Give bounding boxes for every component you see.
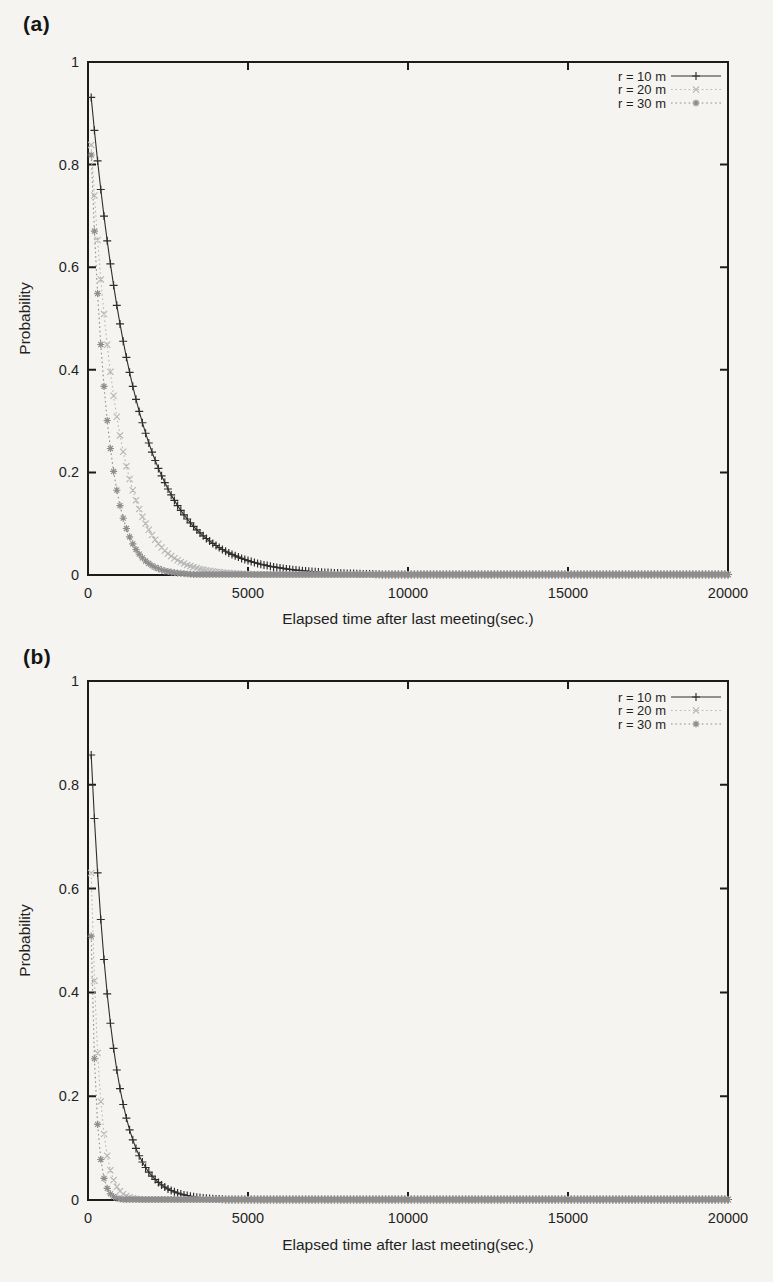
series-line-plus [91, 97, 728, 574]
x-tick-label: 20000 [708, 1210, 748, 1226]
chart-panel-b: 0500010000150002000000.20.40.60.81Elapse… [16, 673, 748, 1253]
y-tick-label: 0.8 [59, 777, 79, 793]
series-markers-cross [88, 870, 731, 1203]
series-markers-plus [87, 93, 732, 578]
x-axis-title: Elapsed time after last meeting(sec.) [282, 610, 534, 627]
series-markers-plus [87, 751, 732, 1204]
x-tick-label: 5000 [232, 585, 264, 601]
y-axis-title: Probability [16, 904, 33, 977]
y-tick-label: 1 [71, 673, 79, 689]
x-tick-label: 10000 [388, 1210, 428, 1226]
y-tick-label: 0.2 [59, 464, 79, 480]
series-line-cross [91, 145, 728, 575]
y-tick-label: 0.4 [59, 362, 79, 378]
y-tick-label: 1 [71, 54, 79, 70]
y-tick-label: 0.6 [59, 259, 79, 275]
chart-panel-a: 0500010000150002000000.20.40.60.81Elapse… [16, 54, 748, 627]
legend-entry: r = 30 m [618, 717, 721, 732]
legend-label: r = 30 m [618, 717, 666, 732]
series-line-asterisk [91, 155, 728, 575]
y-axis-title: Probability [16, 282, 33, 355]
legend-marker-sample [692, 693, 700, 701]
legend-marker-sample [692, 720, 699, 727]
x-tick-label: 0 [84, 585, 92, 601]
x-tick-label: 0 [84, 1210, 92, 1226]
plot-frame [88, 62, 728, 575]
x-axis-title: Elapsed time after last meeting(sec.) [282, 1236, 534, 1253]
x-tick-label: 15000 [548, 585, 588, 601]
x-tick-label: 10000 [388, 585, 428, 601]
y-tick-label: 0.4 [59, 984, 79, 1000]
legend-marker-sample [692, 72, 700, 80]
series-line-cross [91, 873, 728, 1200]
series-markers-asterisk [88, 933, 732, 1204]
series-line-asterisk [91, 936, 728, 1199]
x-tick-label: 5000 [232, 1210, 264, 1226]
legend-marker-sample [692, 99, 699, 106]
y-tick-label: 0.8 [59, 157, 79, 173]
x-tick-label: 20000 [708, 585, 748, 601]
legend-label: r = 30 m [618, 96, 666, 111]
plot-frame [88, 681, 728, 1200]
x-tick-label: 15000 [548, 1210, 588, 1226]
y-tick-label: 0.2 [59, 1088, 79, 1104]
y-tick-label: 0.6 [59, 881, 79, 897]
y-tick-label: 0 [71, 1192, 79, 1208]
probability-decay-charts: 0500010000150002000000.20.40.60.81Elapse… [0, 0, 773, 1282]
legend-entry: r = 30 m [618, 96, 721, 111]
y-tick-label: 0 [71, 567, 79, 583]
series-line-plus [91, 755, 728, 1200]
